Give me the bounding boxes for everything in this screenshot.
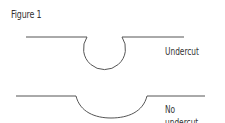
no-undercut-label: No undercut — [165, 103, 210, 123]
undercut-label: Undercut — [165, 45, 199, 58]
undercut-profile — [26, 37, 184, 70]
